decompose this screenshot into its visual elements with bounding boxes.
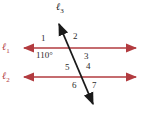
angle-label-1: 1: [41, 33, 46, 44]
angle-measure-110: 110°: [36, 50, 53, 61]
angle-label-4: 4: [86, 61, 91, 72]
diagram-canvas: [0, 0, 152, 118]
label-l3: ℓ3: [56, 1, 64, 12]
label-l3-sub: 3: [60, 7, 64, 15]
label-l2-sub: 2: [6, 76, 10, 84]
label-l1-sub: 1: [6, 47, 10, 55]
angle-label-6: 6: [72, 80, 77, 91]
parallel-lines-transversal-diagram: ℓ3 ℓ1 ℓ2 1 2 110° 3 5 4 6 7: [0, 0, 152, 118]
angle-label-2: 2: [73, 31, 78, 42]
angle-label-7: 7: [92, 80, 97, 91]
label-l1: ℓ1: [2, 41, 10, 52]
angle-label-5: 5: [65, 62, 70, 73]
label-l2: ℓ2: [2, 70, 10, 81]
